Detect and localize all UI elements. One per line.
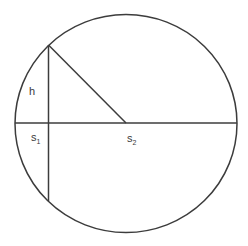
label-h: h <box>29 85 35 97</box>
radius-line <box>49 45 127 123</box>
circle-segment-diagram: h s1 s2 <box>0 0 248 246</box>
label-s2: s2 <box>127 132 137 146</box>
label-s1: s1 <box>31 131 41 145</box>
